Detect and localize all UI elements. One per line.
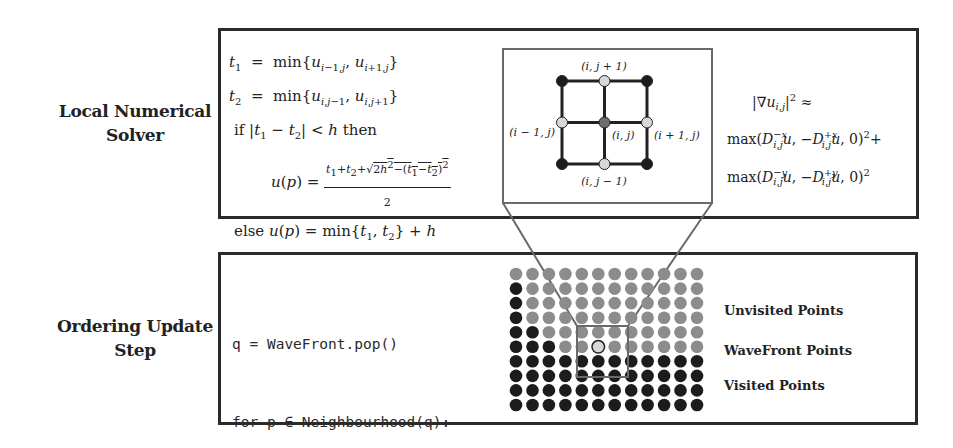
unvisited-point <box>625 326 638 339</box>
visited-point <box>691 384 704 397</box>
unvisited-point <box>592 311 605 324</box>
visited-point <box>543 355 556 368</box>
stencil-neighbor-node-left <box>557 117 568 128</box>
unvisited-point <box>608 282 621 295</box>
visited-point <box>691 355 704 368</box>
visited-point <box>608 370 621 383</box>
visited-point <box>543 384 556 397</box>
unvisited-point <box>658 311 671 324</box>
unvisited-point <box>674 282 687 295</box>
unvisited-point <box>658 297 671 310</box>
visited-point <box>592 355 605 368</box>
unvisited-point <box>625 282 638 295</box>
visited-point <box>543 399 556 412</box>
visited-point <box>641 384 654 397</box>
unvisited-point <box>576 311 589 324</box>
unvisited-point <box>625 311 638 324</box>
stencil-center-node <box>599 117 610 128</box>
visited-point <box>526 326 539 339</box>
unvisited-point <box>526 282 539 295</box>
stencil-corner-node <box>557 76 568 87</box>
unvisited-point <box>559 282 572 295</box>
stencil-neighbor-node-right <box>642 117 653 128</box>
stencil-label-right: (i + 1, j) <box>654 129 700 142</box>
visited-point <box>608 384 621 397</box>
unvisited-point <box>576 268 589 281</box>
visited-point <box>674 399 687 412</box>
unvisited-point <box>592 326 605 339</box>
visited-point <box>510 297 523 310</box>
wavefront-dot-grid <box>510 268 704 412</box>
visited-point <box>510 326 523 339</box>
visited-point <box>543 341 556 354</box>
unvisited-point <box>691 311 704 324</box>
unvisited-point <box>526 311 539 324</box>
unvisited-point <box>543 311 556 324</box>
unvisited-point <box>674 341 687 354</box>
visited-point <box>526 355 539 368</box>
current-point <box>592 341 605 354</box>
unvisited-point <box>608 297 621 310</box>
unvisited-point <box>625 268 638 281</box>
unvisited-point <box>674 326 687 339</box>
unvisited-point <box>641 297 654 310</box>
unvisited-point <box>592 268 605 281</box>
visited-point <box>526 370 539 383</box>
visited-point <box>625 370 638 383</box>
unvisited-point <box>641 268 654 281</box>
visited-point <box>559 384 572 397</box>
unvisited-point <box>691 282 704 295</box>
unvisited-point <box>559 297 572 310</box>
stencil-neighbor-node-bottom <box>599 159 610 170</box>
stencil-label-bottom: (i, j − 1) <box>581 175 627 188</box>
stencil-neighbor-node-top <box>599 76 610 87</box>
visited-point <box>641 399 654 412</box>
unvisited-point <box>543 282 556 295</box>
unvisited-point <box>576 282 589 295</box>
unvisited-point <box>526 297 539 310</box>
unvisited-point <box>510 268 523 281</box>
unvisited-point <box>559 326 572 339</box>
unvisited-point <box>641 341 654 354</box>
stencil-corner-node <box>642 76 653 87</box>
unvisited-point <box>658 326 671 339</box>
unvisited-point <box>641 311 654 324</box>
diagram-graphics: (i, j + 1) (i − 1, j) (i, j) (i + 1, j) … <box>0 0 953 448</box>
visited-point <box>625 399 638 412</box>
visited-point <box>559 399 572 412</box>
visited-point <box>658 370 671 383</box>
visited-point <box>625 355 638 368</box>
visited-point <box>608 355 621 368</box>
visited-point <box>674 355 687 368</box>
visited-point <box>510 341 523 354</box>
visited-point <box>674 370 687 383</box>
unvisited-point <box>559 268 572 281</box>
stencil-corner-node <box>642 159 653 170</box>
visited-point <box>592 399 605 412</box>
visited-point <box>526 384 539 397</box>
visited-point <box>576 399 589 412</box>
unvisited-point <box>674 297 687 310</box>
unvisited-point <box>641 326 654 339</box>
unvisited-point <box>592 297 605 310</box>
visited-point <box>559 370 572 383</box>
stencil-label-left: (i − 1, j) <box>509 126 555 139</box>
visited-point <box>510 384 523 397</box>
unvisited-point <box>543 326 556 339</box>
unvisited-point <box>691 326 704 339</box>
unvisited-point <box>691 297 704 310</box>
unvisited-point <box>691 268 704 281</box>
unvisited-point <box>608 341 621 354</box>
visited-point <box>510 282 523 295</box>
unvisited-point <box>543 297 556 310</box>
visited-point <box>658 384 671 397</box>
visited-point <box>576 384 589 397</box>
unvisited-point <box>608 311 621 324</box>
unvisited-point <box>691 341 704 354</box>
unvisited-point <box>543 268 556 281</box>
visited-point <box>510 370 523 383</box>
visited-point <box>691 370 704 383</box>
unvisited-point <box>559 311 572 324</box>
visited-point <box>510 311 523 324</box>
unvisited-point <box>592 282 605 295</box>
